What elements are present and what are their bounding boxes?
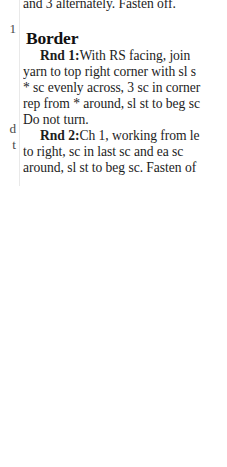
continued-sentence-line: and 3 alternately. Fasten off.: [23, 0, 176, 12]
rnd-1-label: Rnd 1:: [23, 48, 79, 63]
rnd-1-first-line: Rnd 1:With RS facing, join: [23, 48, 190, 64]
rnd-1-line-3: * sc evenly across, 3 sc in corner: [23, 80, 200, 96]
rnd-1-line-1-text: With RS facing, join: [79, 48, 190, 63]
scanned-page: 1 d t and 3 alternately. Fasten off. Bor…: [0, 0, 227, 467]
gutter-fragment-3: t: [12, 137, 16, 153]
adjacent-column-fragments: 1 d t: [0, 0, 17, 467]
column-rule-divider: [19, 0, 20, 186]
rnd-2-line-1-text: Ch 1, working from le: [79, 128, 199, 143]
rnd-2-line-3: around, sl st to beg sc. Fasten of: [23, 160, 196, 176]
text-column: and 3 alternately. Fasten off. Border Rn…: [23, 0, 227, 200]
rnd-1-line-4: rep from * around, sl st to beg sc: [23, 96, 200, 112]
rnd-2-label: Rnd 2:: [23, 128, 79, 143]
gutter-fragment-1: 1: [9, 21, 16, 37]
gutter-fragment-2: d: [9, 121, 16, 137]
rnd-2-first-line: Rnd 2:Ch 1, working from le: [23, 128, 200, 144]
rnd-1-line-2: yarn to top right corner with sl s: [23, 64, 196, 80]
rnd-2-line-2: to right, sc in last sc and ea sc: [23, 144, 183, 160]
rnd-1-line-5: Do not turn.: [23, 112, 88, 128]
section-heading-border: Border: [26, 28, 78, 49]
